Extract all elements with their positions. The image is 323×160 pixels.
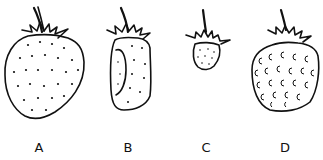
label-a: A: [29, 140, 49, 155]
seed-dots: [13, 41, 215, 111]
strawberry-c-icon: [186, 10, 230, 70]
strawberry-b-icon: [107, 8, 151, 110]
seed-crescents: [255, 52, 314, 107]
label-d: D: [275, 140, 295, 155]
strawberry-figure: A B C D: [0, 0, 323, 160]
strawberry-drawings: [0, 0, 323, 160]
strawberry-a-icon: [5, 7, 84, 119]
label-b: B: [118, 140, 138, 155]
label-c: C: [196, 140, 216, 155]
